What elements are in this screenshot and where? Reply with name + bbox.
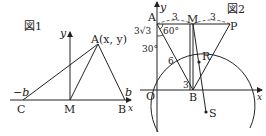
figure-2: 図2 y A M P 3 3 3√3 60° 30° 6 3 R O [134,1,262,132]
x-axis-label: x [257,92,262,102]
y-axis-label: y [159,1,167,14]
point-S [204,110,207,113]
neg-b-label: −b [13,86,29,99]
point-R-label: R [202,50,211,63]
point-M-label: M [187,13,198,26]
seg-AM-label: 3 [172,12,178,22]
segment-CA [23,44,98,100]
geometry-diagram: 図1 y A(x, y) −b b C M B x 図2 [0,0,266,136]
point-P-label: P [230,20,238,33]
segment-PB [193,24,230,90]
b-label: b [125,86,132,99]
segment-MA [70,44,98,100]
angle-60-label: 60° [163,26,179,36]
seg-MP-label: 3 [210,12,216,22]
seg-OB-label: 3 [183,80,189,90]
point-A-label: A [147,11,157,24]
figure-2-title: 図2 [227,3,245,16]
seg-AB-label: 6 [168,56,174,66]
seg-AO-label: 3√3 [134,26,151,36]
point-C-label: C [17,103,25,116]
figure-1: 図1 y A(x, y) −b b C M B x [10,20,133,116]
point-M-label: M [64,103,75,116]
angle-30-label: 30° [142,44,158,54]
point-R [197,60,200,63]
y-axis-label: y [59,27,67,40]
x-axis-label: x [128,103,133,113]
diagram-canvas: 図1 y A(x, y) −b b C M B x 図2 [0,0,266,136]
figure-1-title: 図1 [24,20,42,33]
point-B-label: B [118,103,126,116]
origin-label: O [146,90,155,103]
point-B-label: B [189,91,197,104]
segment-BA [98,44,125,100]
point-A-label: A(x, y) [90,33,127,46]
point-S-label: S [209,107,217,120]
